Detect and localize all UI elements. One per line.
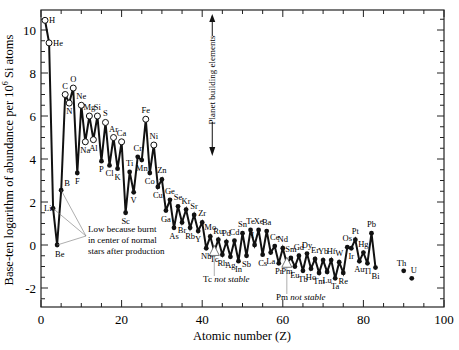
marker-os — [345, 245, 350, 250]
marker-ga — [164, 208, 169, 213]
y-tick-label: -2 — [25, 281, 36, 296]
x-tick-label: 100 — [434, 312, 454, 327]
marker-er — [313, 257, 318, 262]
marker-he — [46, 40, 52, 46]
marker-f — [75, 171, 80, 176]
marker-yb — [321, 258, 326, 263]
element-label-be: Be — [55, 249, 65, 259]
element-label-ir: Ir — [348, 251, 354, 261]
abundance-chart: 020406080100-20246810 HHeLiBeBCNOFNeNaMg… — [0, 0, 459, 350]
element-label-hg: Hg — [358, 239, 369, 249]
y-axis-title: Base-ten logarithm of abundance per 106 … — [1, 34, 16, 285]
marker-in — [236, 259, 241, 264]
element-label-v: V — [131, 195, 138, 205]
element-label-bi: Bi — [371, 271, 380, 281]
marker-fe — [143, 116, 149, 122]
marker-ge — [168, 197, 173, 202]
element-label-kr: Kr — [182, 196, 191, 206]
marker-mn — [139, 158, 144, 163]
marker-xe — [256, 228, 261, 233]
marker-mo — [208, 234, 213, 239]
marker-sn — [240, 231, 245, 236]
element-label-co: Co — [145, 176, 155, 186]
marker-cl — [107, 163, 112, 168]
y-tick-label: 4 — [30, 152, 37, 167]
marker-hf — [329, 258, 334, 263]
marker-dy — [305, 251, 310, 256]
marker-mg — [86, 113, 92, 119]
marker-cu — [155, 185, 160, 190]
element-label-pt: Pt — [352, 226, 360, 236]
marker-hg — [361, 250, 366, 255]
burnt-note-line: in center of normal — [88, 235, 157, 245]
marker-c — [62, 92, 68, 98]
element-label-zn: Zn — [157, 165, 167, 175]
marker-bi — [373, 265, 378, 270]
marker-ti — [127, 170, 132, 175]
element-label-si: Si — [94, 102, 102, 112]
y-tick-label: 10 — [23, 23, 36, 38]
element-label-b: B — [64, 178, 70, 188]
element-label-os: Os — [343, 233, 352, 243]
element-label-ba: Ba — [262, 217, 272, 227]
marker-ir — [349, 246, 354, 251]
marker-be — [55, 243, 60, 248]
marker-au — [357, 259, 362, 264]
marker-lu — [325, 269, 330, 274]
marker-ag — [228, 254, 233, 259]
marker-gd — [297, 253, 302, 258]
marker-br — [180, 220, 185, 225]
marker-u — [409, 276, 414, 281]
x-tick-label: 20 — [115, 312, 128, 327]
element-label-fe: Fe — [142, 105, 151, 115]
tc-note: Tc not stable — [203, 274, 249, 284]
x-tick-label: 0 — [38, 312, 45, 327]
marker-se — [176, 204, 181, 209]
y-tick-label: 2 — [30, 195, 37, 210]
marker-sb — [244, 253, 249, 258]
element-label-sr: Sr — [190, 201, 198, 211]
marker-s — [102, 119, 108, 125]
burnt-note-line: stars after production — [88, 246, 165, 256]
element-label-u: U — [411, 265, 417, 275]
element-label-ti: Ti — [126, 158, 134, 168]
element-label-f: F — [75, 176, 80, 186]
x-axis-title: Atomic number (Z) — [193, 329, 291, 343]
y-tick-label: 8 — [30, 66, 37, 81]
element-label-c: C — [62, 81, 68, 91]
marker-th — [401, 268, 406, 273]
x-tick-label: 80 — [357, 312, 370, 327]
element-label-mn: Mn — [136, 163, 149, 173]
element-label-ne: Ne — [76, 91, 86, 101]
element-label-y: Y — [195, 234, 201, 244]
planet-building-label: Planet building elements — [207, 35, 217, 124]
element-label-h: H — [49, 15, 55, 25]
burnt-note-line: Low because burnt — [88, 224, 157, 234]
marker-tl — [365, 261, 370, 266]
marker-pr — [276, 261, 281, 266]
y-tick-label: 0 — [30, 238, 37, 253]
element-label-zr: Zr — [198, 208, 206, 218]
element-label-al: Al — [89, 143, 98, 153]
marker-cd — [232, 238, 237, 243]
element-label-li: Li — [44, 203, 52, 213]
element-label-sb: Sb — [242, 259, 251, 269]
marker-pt — [353, 237, 358, 242]
pm-note: Pm not stable — [276, 292, 326, 302]
marker-ho — [309, 266, 314, 271]
element-label-rb: Rb — [185, 231, 195, 241]
marker-tm — [317, 271, 322, 276]
marker-o — [70, 85, 76, 91]
marker-tb — [301, 268, 306, 273]
marker-re — [341, 271, 346, 276]
marker-sc — [123, 210, 128, 215]
element-label-pb: Pb — [367, 219, 376, 229]
marker-ce — [272, 244, 277, 249]
element-label-k: K — [114, 172, 121, 182]
marker-co — [147, 171, 152, 176]
marker-sr — [192, 213, 197, 218]
marker-as — [172, 225, 177, 230]
marker-la — [268, 250, 273, 255]
element-label-p: P — [99, 164, 104, 174]
marker-eu — [292, 264, 297, 269]
